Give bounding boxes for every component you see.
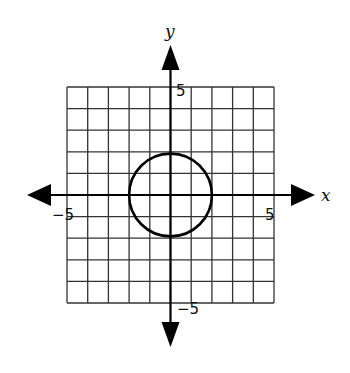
y-axis-down-arrow-icon (162, 322, 180, 347)
x-axis-label: x (321, 185, 331, 205)
y-axis-up-arrow-icon (162, 45, 180, 70)
y-axis-label: y (164, 21, 175, 41)
origin-point (169, 193, 172, 196)
y-tick-label-max: 5 (176, 82, 186, 100)
x-axis-left-arrow-icon (27, 184, 51, 206)
x-axis-right-arrow-icon (291, 184, 315, 206)
x-tick-label-min: −5 (52, 206, 74, 224)
coordinate-plane: x y −5 5 5 −5 (0, 0, 350, 373)
x-tick-label-max: 5 (265, 206, 275, 224)
y-tick-label-min: −5 (177, 300, 199, 318)
